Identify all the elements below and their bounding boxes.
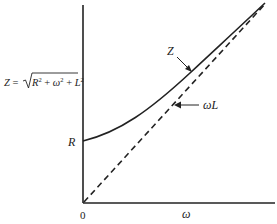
svg-text:Z =: Z =: [4, 77, 18, 88]
impedance-diagram: Z ωL R 0 ω Z = R2 + ω2 + L2: [0, 0, 277, 224]
x-axis-label: ω: [182, 207, 190, 221]
svg-text:R2 + ω2 + L2: R2 + ω2 + L2: [31, 76, 84, 88]
impedance-formula: Z = R2 + ω2 + L2: [4, 73, 84, 88]
z-curve: [83, 3, 265, 141]
r-intercept-label: R: [67, 135, 76, 149]
omega-l-dashed-line: [84, 4, 265, 202]
z-curve-label: Z: [167, 44, 174, 58]
origin-label: 0: [80, 209, 86, 221]
omega-l-label: ωL: [203, 98, 218, 112]
